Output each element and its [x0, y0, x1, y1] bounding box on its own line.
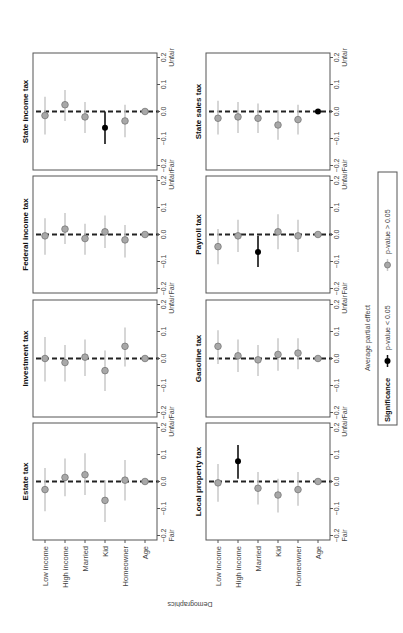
axis-tick-label: 0.2: [160, 423, 167, 433]
estimate-point: [62, 226, 69, 233]
axis-word-unfair: Unfair: [168, 418, 175, 437]
estimate-point: [255, 249, 261, 255]
panel-title: Gasoline tax: [194, 334, 203, 382]
estimate-point: [102, 367, 109, 374]
axis-tick-label: −0.1: [333, 501, 340, 515]
category-label: High income: [234, 546, 243, 588]
category-label: High income: [61, 546, 70, 588]
axis-tick-label: 0.0: [333, 230, 340, 240]
panel-title: Investment tax: [21, 330, 30, 387]
category-label: Homeowner: [294, 546, 303, 587]
estimate-point: [102, 497, 109, 504]
axis-tick-label: −0.1: [333, 378, 340, 392]
estimate-point: [235, 233, 242, 240]
axis-tick-label: 0.0: [160, 107, 167, 117]
category-label: Kid: [101, 546, 110, 557]
axis-tick-label: 0.0: [160, 230, 167, 240]
estimate-point: [62, 101, 69, 108]
panel-title: Federal income tax: [21, 198, 30, 271]
axis-tick-label: 0.2: [160, 300, 167, 310]
axis-tick-label: 0.2: [333, 300, 340, 310]
estimate-point: [142, 478, 149, 485]
estimate-point: [102, 229, 109, 236]
axis-tick-label: −0.2: [160, 158, 167, 172]
axis-tick-label: −0.1: [160, 254, 167, 268]
panel-payroll-tax: Payroll tax−0.2−0.10.00.10.2FairUnfair: [194, 171, 348, 296]
panel-state-sales-tax: State sales tax−0.2−0.10.00.10.2FairUnfa…: [194, 48, 348, 173]
x-axis-title: Average partial effect: [364, 305, 372, 371]
category-label: Homeowner: [121, 546, 130, 587]
panel-gasoline-tax: Gasoline tax−0.2−0.10.00.10.2FairUnfair: [194, 295, 348, 420]
axis-tick-label: 0.1: [160, 450, 167, 460]
estimate-point: [62, 359, 69, 366]
legend-label-not-significant: p-value > 0.05: [384, 209, 392, 254]
panel-title: State income tax: [21, 79, 30, 143]
category-label: Kid: [274, 546, 283, 557]
estimate-point: [82, 114, 89, 121]
estimate-point: [82, 235, 89, 242]
panel-title: Local property tax: [194, 446, 203, 516]
axis-tick-label: −0.1: [160, 131, 167, 145]
axis-word-unfair: Unfair: [168, 171, 175, 190]
axis-tick-label: −0.2: [333, 158, 340, 172]
estimate-point: [255, 357, 262, 364]
estimate-point: [102, 125, 108, 131]
axis-tick-label: −0.2: [160, 281, 167, 295]
axis-tick-label: 0.2: [160, 53, 167, 63]
estimate-point: [295, 116, 302, 123]
axis-tick-label: 0.1: [333, 203, 340, 213]
estimate-point: [142, 108, 149, 115]
estimate-point: [235, 458, 241, 464]
panel-title: State sales tax: [194, 83, 203, 139]
estimate-point: [295, 486, 302, 493]
legend: Significance p-value < 0.05 p-value > 0.…: [378, 172, 397, 425]
estimate-point: [315, 478, 322, 485]
category-label: Age: [141, 546, 150, 559]
axis-tick-label: 0.1: [160, 327, 167, 337]
axis-tick-label: −0.2: [160, 528, 167, 542]
estimate-point: [275, 122, 282, 129]
axis-tick-label: 0.1: [333, 327, 340, 337]
estimate-point: [122, 118, 129, 125]
estimate-point: [275, 351, 282, 358]
axis-tick-label: 0.2: [333, 176, 340, 186]
estimate-point: [275, 229, 282, 236]
axis-word-fair: Fair: [168, 282, 175, 295]
axis-word-fair: Fair: [168, 159, 175, 172]
axis-tick-label: 0.2: [333, 423, 340, 433]
axis-tick-label: 0.0: [160, 354, 167, 364]
panel-local-property-tax: Local property tax−0.2−0.10.00.10.2FairU…: [194, 418, 348, 588]
estimate-point: [62, 474, 69, 481]
axis-word-unfair: Unfair: [341, 295, 348, 314]
estimate-point: [42, 355, 49, 362]
axis-tick-label: 0.1: [333, 450, 340, 460]
category-label: Married: [254, 546, 263, 571]
estimate-point: [255, 115, 262, 122]
axis-word-fair: Fair: [168, 406, 175, 419]
estimate-point: [235, 353, 242, 360]
panel-estate-tax: Estate tax−0.2−0.10.00.10.2FairUnfairLow…: [21, 418, 175, 588]
panel-state-income-tax: State income tax−0.2−0.10.00.10.2FairUnf…: [21, 48, 175, 173]
y-axis-title: Demographics: [167, 600, 213, 608]
estimate-point: [42, 486, 49, 493]
axis-tick-label: 0.2: [333, 53, 340, 63]
axis-tick-label: 0.1: [160, 80, 167, 90]
estimate-point: [122, 343, 129, 350]
axis-word-fair: Fair: [341, 159, 348, 172]
axis-word-unfair: Unfair: [341, 171, 348, 190]
estimate-point: [42, 112, 49, 119]
estimate-point: [255, 485, 262, 492]
axis-tick-label: −0.1: [333, 131, 340, 145]
estimate-point: [215, 343, 222, 350]
axis-tick-label: 0.0: [333, 477, 340, 487]
axis-word-fair: Fair: [341, 406, 348, 419]
axis-tick-label: −0.2: [333, 405, 340, 419]
estimate-point: [315, 231, 322, 238]
estimate-point: [315, 355, 322, 362]
axis-word-unfair: Unfair: [168, 48, 175, 67]
estimate-point: [82, 354, 89, 361]
estimate-point: [275, 492, 282, 499]
axis-tick-label: 0.0: [160, 477, 167, 487]
axis-word-unfair: Unfair: [168, 295, 175, 314]
axis-word-fair: Fair: [341, 282, 348, 295]
